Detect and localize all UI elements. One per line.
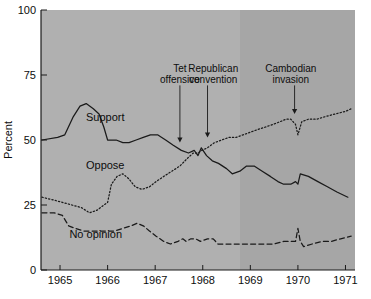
annotation-text-line1: Cambodian <box>265 63 316 74</box>
series-label-support: Support <box>86 111 125 123</box>
y-tick-label: 50 <box>24 134 36 146</box>
annotation-text-line1: Tet <box>173 63 187 74</box>
annotation-text-line1: Republican <box>188 63 238 74</box>
x-tick-label: 1971 <box>333 274 357 286</box>
x-tick-label: 1970 <box>286 274 310 286</box>
x-tick-label: 1968 <box>191 274 215 286</box>
y-tick-label: 100 <box>18 4 36 16</box>
x-tick-label: 1969 <box>238 274 262 286</box>
x-tick-label: 1967 <box>143 274 167 286</box>
y-tick-label: 0 <box>30 264 36 276</box>
line-chart: TetoffensiveRepublicanconventionCambodia… <box>0 0 371 299</box>
y-axis-label: Percent <box>2 121 14 159</box>
annotation-text-line2: invasion <box>272 74 309 85</box>
y-tick-label: 75 <box>24 69 36 81</box>
x-tick-label: 1966 <box>95 274 119 286</box>
x-tick-label: 1965 <box>48 274 72 286</box>
series-label-no-opinion: No opinion <box>69 228 122 240</box>
chart-container: TetoffensiveRepublicanconventionCambodia… <box>0 0 371 299</box>
series-label-oppose: Oppose <box>86 159 125 171</box>
y-tick-label: 25 <box>24 199 36 211</box>
annotation-text-line2: convention <box>189 74 237 85</box>
